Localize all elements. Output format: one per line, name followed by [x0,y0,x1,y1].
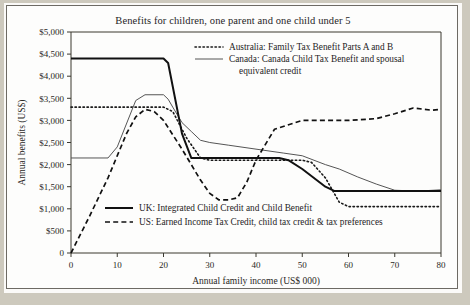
y-tick-label: $5,000 [39,27,64,37]
x-tick-label: 0 [69,260,74,270]
y-tick-label: $3,500 [39,94,64,104]
legend-bottom-label-2: US: Earned Income Tax Credit, child tax … [139,217,383,227]
y-tick-label: $4,000 [39,71,64,81]
legend-bottom-label-1: UK: Integrated Child Credit and Child Be… [139,203,312,213]
y-tick-label: $3,000 [39,116,64,126]
series-line-4 [71,108,441,253]
y-axis-title: Annual benefits (US$) [17,99,28,185]
x-tick-label: 60 [344,260,354,270]
x-axis-title: Annual family income (US$ 000) [192,276,320,287]
legend-top-label-2: Canada: Canada Child Tax Benefit and spo… [229,54,405,64]
scanned-page-background: Benefits for children, one parent and on… [0,0,470,305]
y-tick-label: $1,000 [39,204,64,214]
x-tick-label: 70 [390,260,400,270]
series-line-2 [71,95,441,191]
legend-top-label-1: Australia: Family Tax Benefit Parts A an… [229,42,393,52]
x-tick-label: 50 [298,260,308,270]
y-tick-label: $4,500 [39,49,64,59]
legend-layer: Australia: Family Tax Benefit Parts A an… [105,42,405,227]
x-tick-label: 20 [159,260,169,270]
x-tick-label: 30 [205,260,215,270]
y-tick-label: 0 [60,248,65,258]
x-tick-label: 10 [113,260,123,270]
y-tick-label: $2,500 [39,138,64,148]
chart-plot: 0$500$1,000$1,500$2,000$2,500$3,000$3,50… [7,6,459,290]
y-tick-label: $1,500 [39,182,64,192]
y-tick-label: $2,000 [39,160,64,170]
figure-frame: Benefits for children, one parent and on… [6,5,458,289]
x-tick-label: 80 [437,260,447,270]
legend-top-label-2-line2: equivalent credit [239,66,302,76]
x-tick-label: 40 [252,260,262,270]
y-tick-label: $500 [46,226,65,236]
